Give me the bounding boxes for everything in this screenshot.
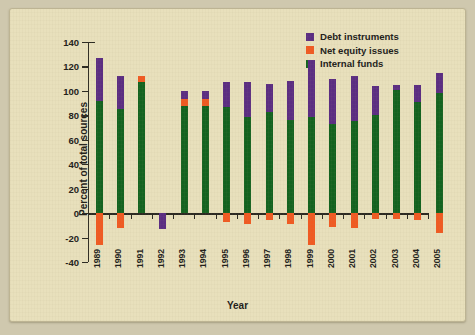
x-tick — [407, 213, 408, 219]
segment-internal — [138, 82, 145, 213]
bar-1998 — [287, 42, 294, 262]
bar-1994 — [202, 42, 209, 262]
y-tick — [82, 140, 88, 141]
segment-equity-negative — [351, 213, 358, 228]
segment-debt-negative — [159, 213, 166, 229]
y-tick-label: 80 — [68, 110, 79, 121]
segment-equity-negative — [414, 213, 421, 220]
segment-debt — [202, 91, 209, 100]
bar-1989 — [96, 42, 103, 262]
legend-item-debt: Debt instruments — [306, 31, 399, 42]
segment-debt — [372, 86, 379, 115]
segment-internal — [329, 124, 336, 213]
y-tick — [82, 238, 88, 239]
x-tick — [258, 213, 259, 219]
bar-2003 — [393, 42, 400, 262]
segment-internal — [117, 109, 124, 213]
x-tick — [173, 213, 174, 219]
segment-equity-negative — [308, 213, 315, 245]
segment-internal — [436, 93, 443, 213]
bar-1993 — [181, 42, 188, 262]
segment-equity-negative — [266, 213, 273, 220]
segment-debt — [414, 85, 421, 102]
segment-debt — [117, 76, 124, 109]
segment-internal — [266, 112, 273, 213]
y-tick-label: 40 — [68, 159, 79, 170]
segment-equity-negative — [436, 213, 443, 233]
x-tick — [88, 213, 89, 219]
segment-equity-negative — [287, 213, 294, 224]
segment-equity — [181, 99, 188, 105]
y-tick-label: 120 — [63, 61, 79, 72]
y-tick — [82, 91, 88, 92]
y-tick — [82, 115, 88, 116]
segment-equity-negative — [329, 213, 336, 226]
x-tick — [216, 213, 217, 219]
y-tick — [82, 164, 88, 165]
segment-equity-negative — [393, 213, 400, 219]
plot-area: 140120100806040200-20-40 198919901991199… — [88, 42, 428, 262]
segment-internal — [96, 101, 103, 213]
segment-debt — [436, 73, 443, 94]
segment-internal — [287, 120, 294, 213]
x-tick — [386, 213, 387, 219]
segment-debt — [181, 91, 188, 100]
y-tick-label: 0 — [74, 208, 79, 219]
x-tick — [109, 213, 110, 219]
x-tick — [279, 213, 280, 219]
segment-debt — [351, 76, 358, 121]
x-tick — [131, 213, 132, 219]
bar-1992 — [159, 42, 166, 262]
segment-internal — [308, 117, 315, 214]
segment-equity-negative — [96, 213, 103, 245]
segment-internal — [372, 115, 379, 213]
y-tick-label: 20 — [68, 183, 79, 194]
segment-debt — [244, 82, 251, 116]
x-tick — [343, 213, 344, 219]
y-tick — [82, 66, 88, 67]
segment-debt — [393, 85, 400, 90]
y-tick-label: 100 — [63, 85, 79, 96]
segment-equity — [138, 76, 145, 82]
y-axis-top-cap — [88, 42, 95, 43]
bar-1990 — [117, 42, 124, 262]
segment-internal — [223, 107, 230, 213]
segment-equity-negative — [244, 213, 251, 224]
segment-internal — [244, 117, 251, 214]
segment-equity-negative — [372, 213, 379, 219]
x-tick — [322, 213, 323, 219]
segment-internal — [393, 90, 400, 213]
x-tick — [301, 213, 302, 219]
segment-internal — [414, 102, 421, 213]
bar-2002 — [372, 42, 379, 262]
y-axis-line — [88, 42, 89, 262]
x-tick — [364, 213, 365, 219]
bar-2000 — [329, 42, 336, 262]
bar-2004 — [414, 42, 421, 262]
legend-swatch-debt — [306, 33, 314, 41]
bar-1991 — [138, 42, 145, 262]
y-tick — [82, 42, 88, 43]
bar-2001 — [351, 42, 358, 262]
segment-internal — [351, 121, 358, 213]
segment-debt — [223, 82, 230, 106]
x-tick — [428, 213, 429, 219]
x-tick — [152, 213, 153, 219]
bar-1996 — [244, 42, 251, 262]
segment-debt — [266, 84, 273, 112]
y-tick-label: 60 — [68, 134, 79, 145]
y-tick-label: 140 — [63, 37, 79, 48]
segment-equity-negative — [223, 213, 230, 222]
y-tick-label: -20 — [65, 232, 79, 243]
legend-label-debt: Debt instruments — [320, 31, 399, 42]
bar-1995 — [223, 42, 230, 262]
x-tick — [194, 213, 195, 219]
chart-figure: Percent of total sources Year Debt instr… — [9, 8, 466, 322]
y-tick — [82, 189, 88, 190]
segment-debt — [308, 60, 315, 116]
bar-1997 — [266, 42, 273, 262]
bar-1999 — [308, 42, 315, 262]
x-axis-title: Year — [10, 300, 465, 311]
y-tick-label: -40 — [65, 257, 79, 268]
segment-equity-negative — [117, 213, 124, 228]
